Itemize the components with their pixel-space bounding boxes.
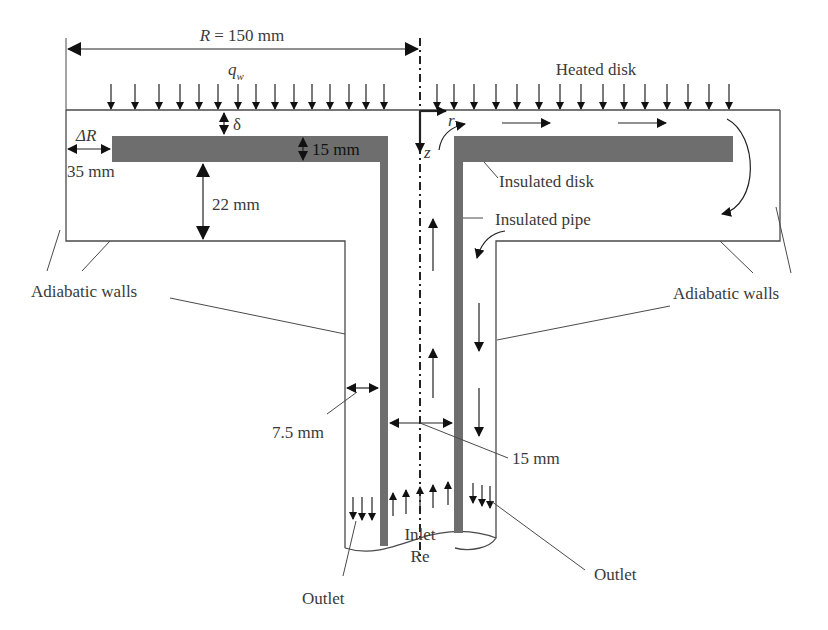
radius-label: R= 150 mm — [199, 26, 284, 45]
radius-dimension: R= 150 mm — [66, 26, 418, 110]
outlet-arrows-left — [353, 497, 372, 520]
domain-outline — [66, 110, 780, 551]
delta-r-label: ΔR — [75, 126, 97, 145]
insulated-disk-label: Insulated disk — [499, 172, 594, 191]
flow-arrows — [433, 119, 750, 436]
delta-r-value: 35 mm — [67, 162, 115, 181]
outlet-label-left: Outlet — [302, 589, 345, 608]
outlet-arrows-right — [473, 483, 490, 508]
adiabatic-walls-left-callout: Adiabatic walls — [31, 230, 345, 334]
adiabatic-walls-label-right: Adiabatic walls — [673, 284, 779, 303]
gap-label: δ — [233, 115, 241, 134]
adiabatic-walls-label-left: Adiabatic walls — [31, 282, 137, 301]
insulated-pipe-label: Insulated pipe — [495, 210, 591, 229]
reynolds-label: Re — [411, 547, 430, 566]
disk-thickness-label: 15 mm — [312, 140, 360, 159]
axis-z-label: z — [423, 143, 431, 162]
cavity-height-label: 22 mm — [212, 195, 260, 214]
inlet-label: Inlet — [404, 525, 435, 544]
outlet-label-right: Outlet — [594, 565, 637, 584]
heat-flux-label: qw — [228, 60, 245, 82]
geometry-schematic: R= 150 mm qw Heated disk — [0, 0, 828, 630]
coordinate-axes: r z — [420, 111, 455, 162]
inlet-arrows — [393, 482, 448, 516]
heated-disk-label: Heated disk — [556, 60, 637, 79]
annulus-gap-label: 7.5 mm — [272, 423, 324, 442]
pipe-radius-label: 15 mm — [512, 449, 560, 468]
